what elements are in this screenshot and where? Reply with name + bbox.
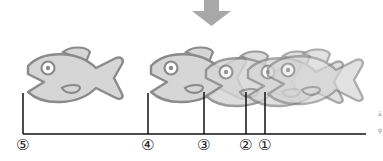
down-arrow-icon — [192, 0, 231, 26]
diagram-canvas — [0, 0, 383, 161]
marker-label-3: ③ — [197, 138, 210, 153]
fish-position-1 — [268, 50, 363, 105]
marker-label-1: ① — [258, 138, 271, 153]
fish-position-diagram: ⑤ ④ ③ ② ① ä g — [0, 0, 383, 161]
marker-label-4: ④ — [141, 138, 154, 153]
marker-label-2: ② — [239, 138, 252, 153]
marker-label-5: ⑤ — [16, 138, 29, 153]
fish-position-5 — [28, 48, 123, 103]
edge-mark-top: ä — [378, 110, 382, 117]
edge-mark-bottom: g — [378, 126, 382, 133]
